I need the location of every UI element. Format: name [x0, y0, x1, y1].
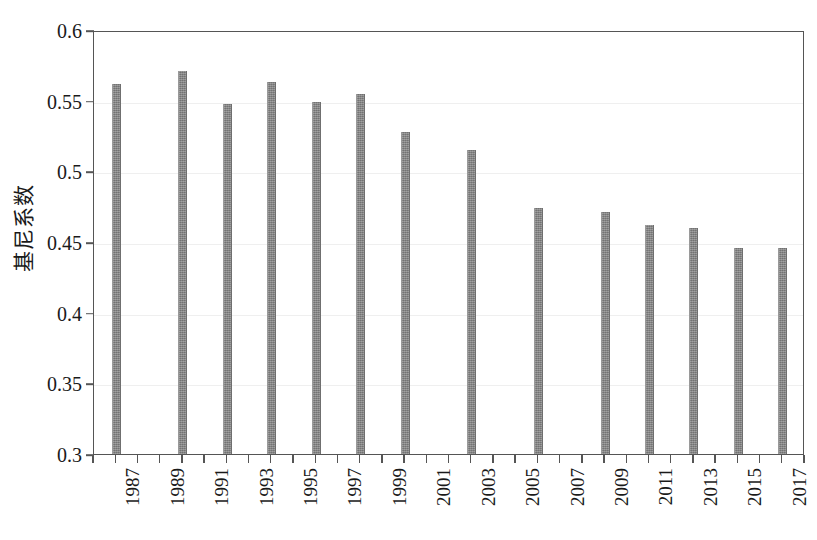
gridline	[94, 103, 803, 104]
x-tick-mark	[759, 455, 760, 463]
x-tick-mark	[492, 455, 493, 463]
x-tick-mark	[248, 455, 249, 463]
x-tick-label: 2017	[789, 468, 811, 506]
x-tick-mark	[692, 455, 693, 463]
y-tick-label: 0.45	[20, 232, 82, 255]
bar	[778, 248, 787, 454]
x-tick-mark	[559, 455, 560, 463]
x-tick-mark	[737, 455, 738, 463]
chart-figure: 基尼系数 0.30.350.40.450.50.550.6 1987198919…	[0, 0, 817, 540]
y-axis-title: 基尼系数	[0, 0, 44, 455]
y-tick-label: 0.3	[20, 444, 82, 467]
x-tick-label: 1987	[122, 468, 144, 506]
x-tick-mark	[381, 455, 382, 463]
bar	[356, 94, 365, 454]
bar	[467, 150, 476, 454]
x-tick-mark	[426, 455, 427, 463]
x-tick-mark	[581, 455, 582, 463]
bar	[178, 71, 187, 454]
x-tick-label: 1995	[300, 468, 322, 506]
x-tick-mark	[115, 455, 116, 463]
bar	[601, 212, 610, 454]
x-tick-mark	[803, 455, 804, 463]
plot-frame	[93, 31, 804, 455]
x-tick-label: 2007	[567, 468, 589, 506]
x-tick-mark	[670, 455, 671, 463]
x-tick-mark	[226, 455, 227, 463]
x-tick-mark	[514, 455, 515, 463]
x-tick-mark	[359, 455, 360, 463]
x-tick-mark	[159, 455, 160, 463]
x-tick-mark	[203, 455, 204, 463]
x-tick-label: 1991	[211, 468, 233, 506]
plot-area	[94, 32, 803, 454]
bar	[401, 132, 410, 454]
bar	[689, 228, 698, 454]
x-tick-mark	[137, 455, 138, 463]
x-tick-mark	[626, 455, 627, 463]
x-tick-label: 1993	[256, 468, 278, 506]
bar	[112, 84, 121, 454]
x-tick-mark	[181, 455, 182, 463]
x-tick-label: 2015	[744, 468, 766, 506]
x-tick-label: 2001	[433, 468, 455, 506]
bar	[267, 82, 276, 454]
x-tick-mark	[92, 455, 93, 463]
x-tick-mark	[470, 455, 471, 463]
y-tick-label: 0.55	[20, 90, 82, 113]
x-tick-mark	[292, 455, 293, 463]
gridline	[94, 173, 803, 174]
bar	[734, 248, 743, 454]
x-tick-mark	[781, 455, 782, 463]
x-tick-label: 2011	[655, 468, 677, 505]
x-tick-mark	[270, 455, 271, 463]
x-tick-label: 2013	[700, 468, 722, 506]
x-tick-mark	[648, 455, 649, 463]
x-tick-mark	[315, 455, 316, 463]
bar	[223, 104, 232, 455]
x-tick-label: 2009	[611, 468, 633, 506]
x-tick-label: 1997	[344, 468, 366, 506]
x-tick-label: 2005	[522, 468, 544, 506]
x-tick-mark	[537, 455, 538, 463]
x-tick-mark	[403, 455, 404, 463]
y-tick-label: 0.35	[20, 373, 82, 396]
y-axis-title-text: 基尼系数	[7, 184, 37, 272]
x-tick-label: 1989	[167, 468, 189, 506]
x-tick-mark	[603, 455, 604, 463]
x-tick-label: 1999	[389, 468, 411, 506]
y-tick-label: 0.5	[20, 161, 82, 184]
bar	[645, 225, 654, 454]
x-tick-mark	[448, 455, 449, 463]
bar	[534, 208, 543, 454]
x-tick-mark	[714, 455, 715, 463]
y-tick-label: 0.4	[20, 302, 82, 325]
y-tick-label: 0.6	[20, 20, 82, 43]
x-tick-label: 2003	[478, 468, 500, 506]
bar	[312, 102, 321, 454]
x-tick-mark	[337, 455, 338, 463]
